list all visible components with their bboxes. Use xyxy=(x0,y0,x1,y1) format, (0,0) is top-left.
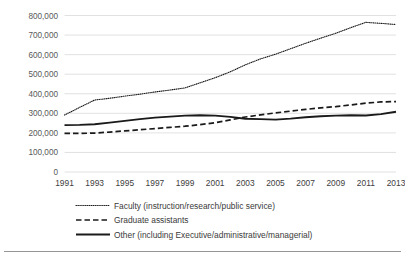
y-tick-label: 600,000 xyxy=(28,51,58,60)
line-chart: 0100,000200,000300,000400,000500,000600,… xyxy=(0,0,405,259)
y-tick-label: 300,000 xyxy=(28,109,58,118)
y-tick-label: 400,000 xyxy=(28,90,58,99)
y-tick-label: 200,000 xyxy=(28,129,58,138)
legend-label-graduate-assistants: Graduate assistants xyxy=(114,215,188,225)
x-tick-label: 1991 xyxy=(55,178,74,188)
y-tick-label: 500,000 xyxy=(28,70,58,79)
chart-legend: Faculty (instruction/research/public ser… xyxy=(76,201,313,240)
x-tick-label: 1995 xyxy=(115,178,134,188)
y-tick-label: 800,000 xyxy=(28,12,58,21)
x-tick-label: 1993 xyxy=(85,178,104,188)
series-line-faculty xyxy=(65,22,397,115)
x-tick-label: 2007 xyxy=(296,178,315,188)
x-tick-label: 2011 xyxy=(357,178,375,188)
chart-canvas: 0100,000200,000300,000400,000500,000600,… xyxy=(0,0,405,259)
legend-label-faculty: Faculty (instruction/research/public ser… xyxy=(114,201,275,211)
x-tick-label: 1997 xyxy=(146,178,165,188)
y-tick-label: 700,000 xyxy=(28,31,58,40)
y-tick-label: 100,000 xyxy=(28,148,58,157)
y-axis-tick-labels: 0100,000200,000300,000400,000500,000600,… xyxy=(28,12,58,178)
x-axis-tick-labels: 1991199319951997199920012003200520072009… xyxy=(55,178,405,188)
legend-label-other: Other (including Executive/administrativ… xyxy=(114,230,313,240)
x-tick-label: 2013 xyxy=(387,178,405,188)
data-series xyxy=(65,22,397,133)
series-line-other xyxy=(65,112,397,125)
x-tick-label: 1999 xyxy=(176,178,195,188)
x-tick-label: 2003 xyxy=(236,178,255,188)
x-tick-label: 2005 xyxy=(266,178,285,188)
x-tick-label: 2001 xyxy=(206,178,225,188)
y-tick-label: 0 xyxy=(53,168,58,177)
gridlines xyxy=(65,16,397,173)
x-tick-label: 2009 xyxy=(326,178,345,188)
